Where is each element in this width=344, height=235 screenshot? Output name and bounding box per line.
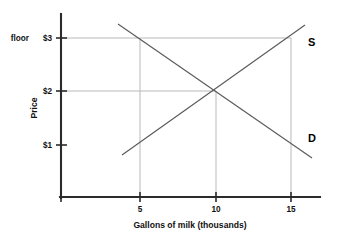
y-tick-label-2: $2 <box>43 87 53 96</box>
guide-lines <box>61 38 291 197</box>
x-tick-label-15: 15 <box>286 205 296 214</box>
x-tick-label-10: 10 <box>211 205 221 214</box>
demand-curve-label: D <box>308 132 316 144</box>
price-floor-annotation: floor <box>11 34 30 43</box>
x-tick-label-5: 5 <box>138 205 143 214</box>
y-axis-title: Price <box>29 97 39 118</box>
chart-canvas: $3 floor $2 $1 5 10 15 Price Gallons of … <box>0 0 344 235</box>
x-axis-title: Gallons of milk (thousands) <box>133 220 246 230</box>
y-tick-label-3: $3 <box>43 34 53 43</box>
supply-demand-chart: $3 floor $2 $1 5 10 15 Price Gallons of … <box>0 0 344 235</box>
supply-curve-label: S <box>308 36 315 48</box>
y-tick-label-1: $1 <box>43 141 53 150</box>
